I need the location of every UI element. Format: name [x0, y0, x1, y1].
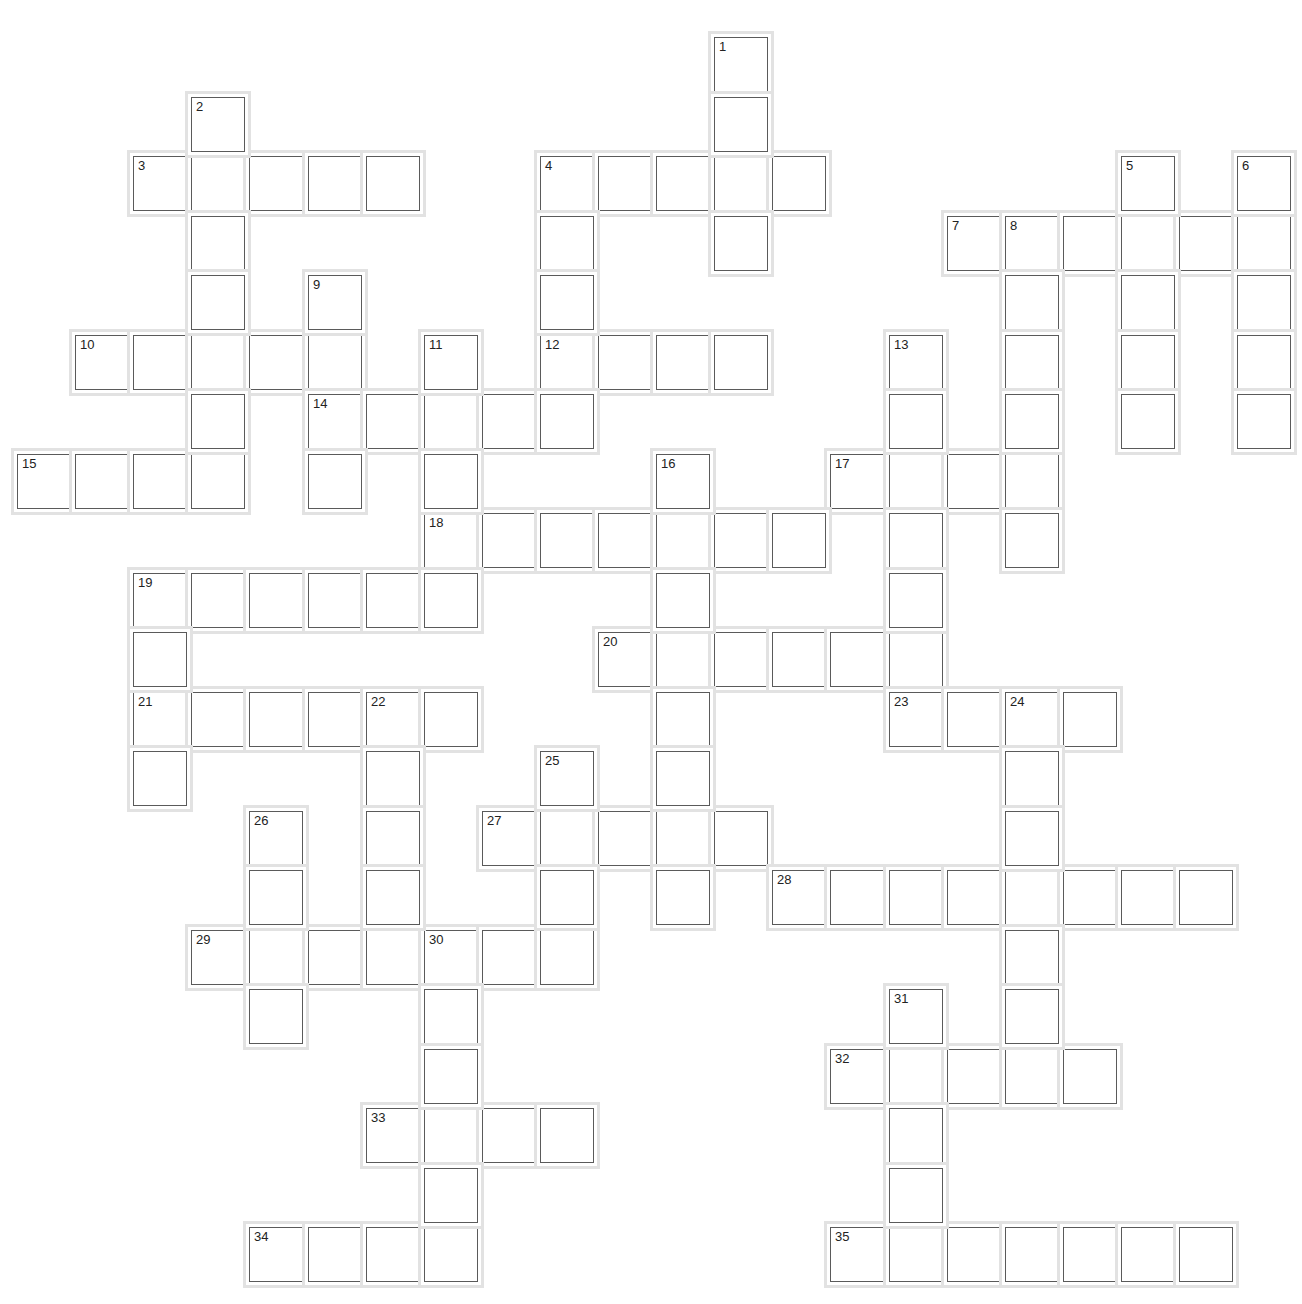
- crossword-cell[interactable]: [308, 454, 362, 509]
- crossword-cell[interactable]: 29: [191, 930, 245, 985]
- crossword-cell[interactable]: 9: [308, 275, 362, 330]
- crossword-cell[interactable]: [598, 513, 652, 568]
- crossword-cell[interactable]: [1005, 1049, 1059, 1104]
- crossword-cell[interactable]: [947, 1227, 1001, 1282]
- crossword-cell[interactable]: [1063, 1227, 1117, 1282]
- crossword-cell[interactable]: 27: [482, 811, 536, 866]
- crossword-cell[interactable]: [1121, 1227, 1175, 1282]
- crossword-cell[interactable]: [714, 632, 768, 687]
- crossword-cell[interactable]: [1237, 275, 1291, 330]
- crossword-cell[interactable]: [889, 1227, 943, 1282]
- crossword-cell[interactable]: [75, 454, 129, 509]
- crossword-cell[interactable]: [191, 692, 245, 747]
- crossword-cell[interactable]: [191, 573, 245, 628]
- crossword-cell[interactable]: 7: [947, 216, 1001, 271]
- crossword-cell[interactable]: [656, 632, 710, 687]
- crossword-cell[interactable]: [1005, 751, 1059, 806]
- crossword-cell[interactable]: [540, 1108, 594, 1163]
- crossword-cell[interactable]: [889, 1108, 943, 1163]
- crossword-cell[interactable]: 6: [1237, 156, 1291, 211]
- crossword-cell[interactable]: [947, 870, 1001, 925]
- crossword-cell[interactable]: 30: [424, 930, 478, 985]
- crossword-cell[interactable]: [540, 394, 594, 449]
- crossword-cell[interactable]: [1005, 930, 1059, 985]
- crossword-cell[interactable]: 8: [1005, 216, 1059, 271]
- crossword-cell[interactable]: 16: [656, 454, 710, 509]
- crossword-cell[interactable]: [889, 394, 943, 449]
- crossword-cell[interactable]: 20: [598, 632, 652, 687]
- crossword-cell[interactable]: [1121, 870, 1175, 925]
- crossword-cell[interactable]: [947, 1049, 1001, 1104]
- crossword-cell[interactable]: 4: [540, 156, 594, 211]
- crossword-cell[interactable]: [1005, 335, 1059, 390]
- crossword-cell[interactable]: [656, 335, 710, 390]
- crossword-cell[interactable]: [1005, 989, 1059, 1044]
- crossword-cell[interactable]: [1237, 394, 1291, 449]
- crossword-cell[interactable]: [482, 394, 536, 449]
- crossword-cell[interactable]: [133, 335, 187, 390]
- crossword-cell[interactable]: [656, 870, 710, 925]
- crossword-cell[interactable]: 12: [540, 335, 594, 390]
- crossword-cell[interactable]: [366, 394, 420, 449]
- crossword-cell[interactable]: [889, 573, 943, 628]
- crossword-cell[interactable]: [366, 751, 420, 806]
- crossword-cell[interactable]: [424, 1227, 478, 1282]
- crossword-cell[interactable]: 31: [889, 989, 943, 1044]
- crossword-cell[interactable]: [1005, 870, 1059, 925]
- crossword-cell[interactable]: 2: [191, 97, 245, 152]
- crossword-cell[interactable]: 26: [249, 811, 303, 866]
- crossword-cell[interactable]: [1121, 394, 1175, 449]
- crossword-cell[interactable]: [424, 1108, 478, 1163]
- crossword-cell[interactable]: [714, 156, 768, 211]
- crossword-cell[interactable]: [656, 692, 710, 747]
- crossword-cell[interactable]: 11: [424, 335, 478, 390]
- crossword-cell[interactable]: [249, 930, 303, 985]
- crossword-cell[interactable]: [830, 632, 884, 687]
- crossword-cell[interactable]: [1005, 394, 1059, 449]
- crossword-cell[interactable]: [424, 692, 478, 747]
- crossword-cell[interactable]: 13: [889, 335, 943, 390]
- crossword-cell[interactable]: 14: [308, 394, 362, 449]
- crossword-cell[interactable]: [308, 1227, 362, 1282]
- crossword-cell[interactable]: [830, 870, 884, 925]
- crossword-cell[interactable]: 3: [133, 156, 187, 211]
- crossword-cell[interactable]: [889, 513, 943, 568]
- crossword-cell[interactable]: [191, 275, 245, 330]
- crossword-cell[interactable]: 22: [366, 692, 420, 747]
- crossword-cell[interactable]: [249, 156, 303, 211]
- crossword-cell[interactable]: [889, 870, 943, 925]
- crossword-cell[interactable]: [1005, 811, 1059, 866]
- crossword-cell[interactable]: [191, 335, 245, 390]
- crossword-cell[interactable]: [308, 573, 362, 628]
- crossword-cell[interactable]: [424, 1049, 478, 1104]
- crossword-cell[interactable]: 19: [133, 573, 187, 628]
- crossword-cell[interactable]: [249, 692, 303, 747]
- crossword-cell[interactable]: [656, 811, 710, 866]
- crossword-cell[interactable]: [540, 870, 594, 925]
- crossword-cell[interactable]: [424, 989, 478, 1044]
- crossword-cell[interactable]: [656, 573, 710, 628]
- crossword-cell[interactable]: [714, 335, 768, 390]
- crossword-cell[interactable]: [249, 335, 303, 390]
- crossword-cell[interactable]: [482, 513, 536, 568]
- crossword-cell[interactable]: 33: [366, 1108, 420, 1163]
- crossword-cell[interactable]: [191, 394, 245, 449]
- crossword-cell[interactable]: [424, 394, 478, 449]
- crossword-cell[interactable]: 32: [830, 1049, 884, 1104]
- crossword-cell[interactable]: 34: [249, 1227, 303, 1282]
- crossword-cell[interactable]: [540, 216, 594, 271]
- crossword-cell[interactable]: [366, 156, 420, 211]
- crossword-cell[interactable]: [889, 632, 943, 687]
- crossword-cell[interactable]: [249, 573, 303, 628]
- crossword-cell[interactable]: [1063, 692, 1117, 747]
- crossword-cell[interactable]: [482, 930, 536, 985]
- crossword-cell[interactable]: [540, 811, 594, 866]
- crossword-cell[interactable]: 15: [17, 454, 71, 509]
- crossword-cell[interactable]: [1121, 275, 1175, 330]
- crossword-cell[interactable]: 35: [830, 1227, 884, 1282]
- crossword-cell[interactable]: [308, 930, 362, 985]
- crossword-cell[interactable]: [366, 870, 420, 925]
- crossword-cell[interactable]: [1063, 1049, 1117, 1104]
- crossword-cell[interactable]: 25: [540, 751, 594, 806]
- crossword-cell[interactable]: [424, 454, 478, 509]
